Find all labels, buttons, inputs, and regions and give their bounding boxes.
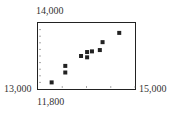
data-point: [79, 54, 83, 58]
y-tick: [40, 56, 41, 57]
y-tick: [40, 75, 41, 76]
y-tick: [40, 62, 41, 63]
x-tick: [62, 87, 63, 88]
y-tick: [40, 82, 41, 83]
data-point: [63, 64, 67, 68]
y-tick: [40, 42, 41, 43]
scatter-plot: [38, 23, 135, 89]
y-min-label: 13,000: [4, 84, 32, 94]
data-point: [90, 49, 94, 53]
data-point: [63, 71, 67, 75]
data-point: [50, 80, 54, 84]
data-point: [85, 55, 89, 59]
x-tick: [86, 87, 87, 88]
data-point: [98, 48, 102, 52]
x-tick: [110, 87, 111, 88]
y-tick: [40, 49, 41, 50]
y-tick: [40, 36, 41, 37]
x-min-label: 11,800: [37, 97, 64, 107]
data-point: [117, 31, 121, 35]
data-point: [85, 50, 89, 54]
x-max-label: 15,000: [139, 84, 167, 94]
y-tick: [40, 29, 41, 30]
x-tick: [135, 87, 136, 88]
y-tick: [40, 69, 41, 70]
data-point: [101, 40, 105, 44]
y-max-label: 14,000: [36, 6, 64, 16]
plot-area: [37, 22, 136, 90]
